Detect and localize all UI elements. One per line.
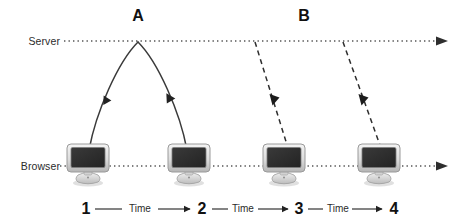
- diagram-canvas: Server Browser A B 1 Time 2 Time 3 Time …: [0, 0, 456, 224]
- timeline-segment-label-3: Time: [318, 203, 358, 214]
- phase-label-b: B: [284, 7, 324, 25]
- timeline-step-2: 2: [192, 200, 212, 218]
- monitor-icon: [168, 144, 210, 187]
- phase-label-a: A: [118, 7, 158, 25]
- browser-axis-label: Browser: [2, 160, 60, 172]
- monitor-icon: [358, 144, 400, 187]
- flow-push-b2: [343, 42, 381, 148]
- timeline-segment-label-1: Time: [120, 203, 160, 214]
- monitor-icon: [263, 144, 305, 187]
- diagram-graphics: [0, 0, 456, 224]
- server-axis-label: Server: [8, 35, 60, 47]
- flow-response-a: [138, 42, 187, 150]
- timeline-step-4: 4: [384, 200, 404, 218]
- timeline-segment-label-2: Time: [223, 203, 263, 214]
- flow-push-b1: [255, 42, 288, 148]
- flow-request-a: [89, 42, 138, 150]
- monitor-icon: [67, 144, 109, 187]
- timeline-step-1: 1: [76, 200, 96, 218]
- timeline-step-3: 3: [289, 200, 309, 218]
